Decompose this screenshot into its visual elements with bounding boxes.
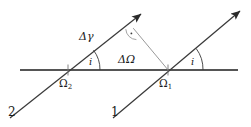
label-omega-two-subscript: 2 bbox=[68, 83, 72, 91]
ray-line-two bbox=[10, 14, 141, 118]
label-delta-gamma: Δγ bbox=[79, 31, 94, 42]
label-omega-two: Ω2 bbox=[59, 78, 72, 91]
label-ray-one: 1 bbox=[111, 106, 119, 118]
label-angle-i-left: i bbox=[89, 57, 92, 67]
figure-canvas: Δγ ΔΩ i i Ω2 Ω1 2 1 bbox=[0, 0, 251, 127]
label-ray-two: 2 bbox=[8, 106, 16, 118]
label-omega-one-subscript: 1 bbox=[168, 83, 172, 91]
right-angle-dot-icon bbox=[131, 33, 133, 35]
label-omega-one-base: Ω bbox=[159, 77, 168, 89]
label-omega-two-base: Ω bbox=[59, 77, 68, 89]
label-angle-i-right: i bbox=[191, 57, 194, 67]
label-delta-omega: ΔΩ bbox=[118, 54, 135, 65]
label-omega-one: Ω1 bbox=[159, 78, 172, 91]
angle-arc-i-right bbox=[196, 49, 203, 71]
helper-segment bbox=[134, 29, 168, 70]
angle-arc-i-left bbox=[94, 50, 101, 70]
